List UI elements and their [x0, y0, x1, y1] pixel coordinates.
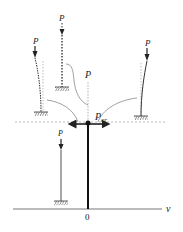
post-buckling-curve-left [47, 100, 78, 122]
bifurcation-diagram: v 0 P Pcr P P P [0, 0, 183, 232]
fixed-support-icon [55, 87, 69, 91]
fixed-support-icon [54, 201, 68, 205]
arrow-down-icon [33, 51, 38, 58]
column-buckled-right: P [134, 38, 151, 120]
critical-load-label: Pcr [94, 111, 107, 124]
column-buckled-left: P [32, 36, 48, 116]
arrow-down-icon [60, 29, 65, 35]
load-label-left: P [32, 36, 39, 46]
p-axis-label: P [84, 69, 91, 80]
load-label-bottom: P [57, 129, 63, 138]
origin-label: 0 [85, 212, 90, 222]
column-straight-unstable: P [55, 13, 69, 91]
column-straight-stable: P [54, 129, 68, 205]
load-label-right: P [144, 38, 151, 48]
load-label-top-center: P [58, 13, 65, 23]
v-axis-label: v [166, 203, 171, 214]
arrow-down-icon [145, 54, 150, 61]
arrow-down-icon [59, 144, 64, 150]
fixed-support-icon [134, 116, 148, 120]
fixed-support-icon [34, 112, 48, 116]
